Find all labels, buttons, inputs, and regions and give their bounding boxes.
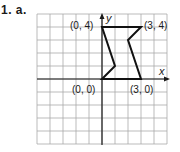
label-point-0-4: (0, 4) [70,20,93,31]
label-point-3-0: (3, 0) [130,84,153,95]
label-point-3-4: (3, 4) [144,20,167,31]
x-axis-label: x [158,65,165,77]
coordinate-plane: x y (0, 4) (3, 4) (0, 0) (3, 0) [0,0,180,152]
label-point-0-0: (0, 0) [72,84,95,95]
